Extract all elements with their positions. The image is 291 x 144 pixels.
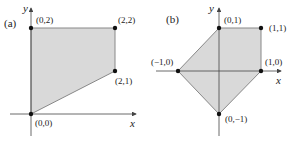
x-axis-label-a: x — [129, 117, 135, 129]
vertex-label-a-2-1: (2,1) — [115, 76, 132, 86]
vertex-b-1-0 — [259, 69, 263, 73]
vertex-b-0-1 — [217, 26, 221, 30]
vertex-label-b-neg1-0: (−1,0) — [151, 57, 173, 67]
vertex-a-2-2 — [113, 26, 117, 30]
feasible-regions-figure: (a) y x (0,2) (2,2) (2,1) (0,0) (b) y x … — [0, 0, 291, 144]
vertex-a-2-1 — [113, 69, 117, 73]
panel-a: (a) y x (0,2) (2,2) (2,1) (0,0) — [4, 2, 136, 136]
vertex-a-0-2 — [29, 26, 33, 30]
panel-b: (b) y x (0,1) (1,1) (1,0) (0,−1) (−1,0) — [151, 2, 286, 136]
vertex-label-a-2-2: (2,2) — [118, 15, 135, 25]
vertex-label-a-0-2: (0,2) — [36, 15, 53, 25]
x-axis-label-b: x — [275, 74, 281, 86]
region-a — [31, 28, 115, 114]
panel-label-a: (a) — [4, 17, 17, 30]
vertex-label-b-1-1: (1,1) — [269, 23, 286, 33]
panel-label-b: (b) — [166, 13, 179, 26]
vertex-label-b-0-1: (0,1) — [224, 15, 241, 25]
vertex-label-b-1-0: (1,0) — [265, 57, 282, 67]
vertex-label-a-0-0: (0,0) — [35, 118, 52, 128]
y-axis-label-b: y — [208, 2, 214, 14]
vertex-b-1-1 — [259, 26, 263, 30]
vertex-b-neg1-0 — [176, 69, 180, 73]
vertex-a-0-0 — [29, 112, 33, 116]
vertex-b-0-neg1 — [217, 112, 221, 116]
vertex-label-b-0-neg1: (0,−1) — [225, 114, 247, 124]
y-axis-label-a: y — [22, 2, 28, 14]
